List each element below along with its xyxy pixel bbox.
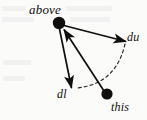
label-du: du [127, 31, 139, 43]
label-dl: dl [57, 88, 67, 100]
node-this-dot [101, 88, 112, 99]
arrow-du [62, 25, 126, 42]
vector-diagram-figure: above du dl this [0, 0, 147, 120]
label-above: above [29, 3, 61, 16]
dashed-arc [77, 44, 125, 88]
node-above-dot [53, 17, 65, 29]
label-this: this [111, 101, 129, 113]
